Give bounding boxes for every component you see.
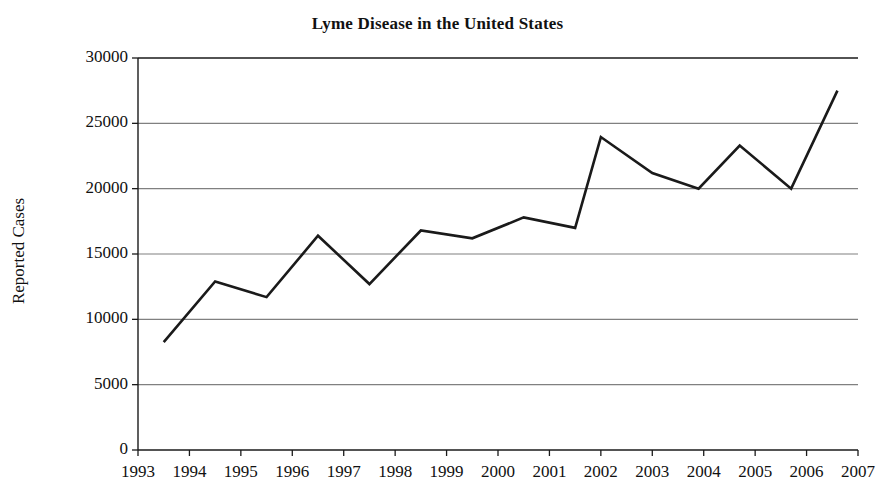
y-tick-label: 15000 <box>86 243 129 263</box>
x-tick-label: 1997 <box>318 462 370 482</box>
x-tick-label: 2004 <box>678 462 730 482</box>
y-tick-label: 0 <box>120 439 129 459</box>
y-tick-label: 5000 <box>94 374 128 394</box>
x-tick-label: 1995 <box>215 462 267 482</box>
y-tick-label: 10000 <box>86 308 129 328</box>
x-tick-label: 2007 <box>832 462 880 482</box>
x-tick-label: 2002 <box>575 462 627 482</box>
y-tick-label: 30000 <box>86 47 129 67</box>
x-tick-label: 1998 <box>369 462 421 482</box>
data-series-line <box>164 91 838 343</box>
x-tick-marks-group <box>138 450 858 456</box>
x-tick-label: 2005 <box>729 462 781 482</box>
x-tick-label: 2006 <box>781 462 833 482</box>
gridlines-group <box>138 123 858 384</box>
x-tick-label: 1996 <box>266 462 318 482</box>
x-tick-label: 2000 <box>472 462 524 482</box>
x-tick-label: 2003 <box>626 462 678 482</box>
y-tick-label: 25000 <box>86 112 129 132</box>
x-tick-label: 1999 <box>421 462 473 482</box>
x-tick-label: 1994 <box>163 462 215 482</box>
x-tick-label: 2001 <box>523 462 575 482</box>
y-tick-marks-group <box>132 58 138 450</box>
y-tick-label: 20000 <box>86 178 129 198</box>
x-tick-label: 1993 <box>112 462 164 482</box>
